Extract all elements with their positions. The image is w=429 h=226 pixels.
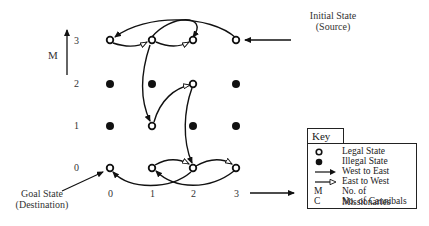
goal-state-annotation: Goal State (Destination) bbox=[8, 188, 76, 210]
legal-state-icon bbox=[149, 165, 156, 172]
y-tick-1: 1 bbox=[74, 120, 79, 131]
arc-31-to-32 bbox=[113, 42, 147, 46]
legal-state-icon bbox=[190, 81, 197, 88]
legal-state-icon bbox=[190, 37, 197, 44]
goal-state-label: Goal State bbox=[8, 188, 76, 199]
y-tick-0: 0 bbox=[74, 162, 79, 173]
legal-state-icon bbox=[107, 165, 114, 172]
arc-02-to-03 bbox=[196, 160, 232, 166]
illegal-state-icon bbox=[189, 122, 197, 130]
x-tick-0: 0 bbox=[108, 188, 113, 199]
key-item-cannibals: C No. of Cannibals bbox=[308, 196, 416, 207]
arc-01-to-02 bbox=[155, 160, 189, 165]
m-axis-label: M bbox=[48, 50, 58, 61]
illegal-state-icon bbox=[232, 80, 240, 88]
state-nodes bbox=[106, 37, 240, 172]
y-tick-3: 3 bbox=[74, 35, 79, 46]
arc-11-to-22 bbox=[154, 85, 190, 122]
illegal-state-icon bbox=[106, 80, 114, 88]
x-tick-1: 1 bbox=[150, 188, 155, 199]
illegal-state-icon bbox=[106, 122, 114, 130]
legal-state-icon bbox=[190, 165, 197, 172]
initial-state-annotation: Initial State (Source) bbox=[298, 10, 368, 32]
legal-state-icon bbox=[233, 37, 240, 44]
illegal-state-icon bbox=[232, 122, 240, 130]
legal-state-icon bbox=[107, 37, 114, 44]
legal-state-icon bbox=[149, 37, 156, 44]
key-legend: Legal State Illegal State West to East E… bbox=[307, 143, 417, 209]
arc-30-to-31 bbox=[156, 42, 189, 46]
x-tick-2: 2 bbox=[191, 188, 196, 199]
initial-state-sublabel: (Source) bbox=[298, 21, 368, 32]
y-tick-2: 2 bbox=[74, 78, 79, 89]
illegal-state-icon bbox=[148, 80, 156, 88]
goal-state-sublabel: (Destination) bbox=[8, 199, 76, 210]
x-tick-3: 3 bbox=[234, 188, 239, 199]
legal-state-icon bbox=[233, 165, 240, 172]
initial-state-label: Initial State bbox=[298, 10, 368, 21]
legal-state-icon bbox=[149, 123, 156, 130]
transition-arcs bbox=[113, 20, 236, 186]
